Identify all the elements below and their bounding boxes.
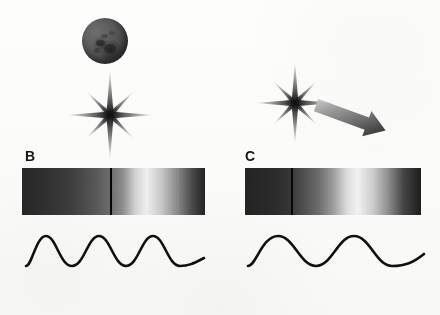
wave-c bbox=[246, 228, 426, 274]
spectrum-bar-c bbox=[245, 168, 421, 215]
absorption-line-c bbox=[291, 168, 293, 215]
panel-label-b: B bbox=[25, 149, 35, 163]
sphere-speckle bbox=[101, 34, 108, 38]
star-burst bbox=[62, 67, 158, 163]
sphere-speckle bbox=[109, 31, 115, 35]
panel-label-c: C bbox=[245, 149, 255, 163]
sphere-speckle bbox=[104, 44, 116, 53]
motion-arrow bbox=[314, 92, 396, 140]
spectrum-grain bbox=[245, 168, 421, 215]
sphere-speckle bbox=[96, 40, 105, 46]
planet-sphere bbox=[82, 18, 128, 64]
wave-b bbox=[24, 228, 206, 274]
sphere-speckle bbox=[94, 48, 100, 53]
absorption-line-b bbox=[110, 168, 112, 215]
spectrum-grain bbox=[22, 168, 205, 215]
spectrum-bar-b bbox=[22, 168, 205, 215]
figure-canvas: B bbox=[0, 0, 440, 315]
